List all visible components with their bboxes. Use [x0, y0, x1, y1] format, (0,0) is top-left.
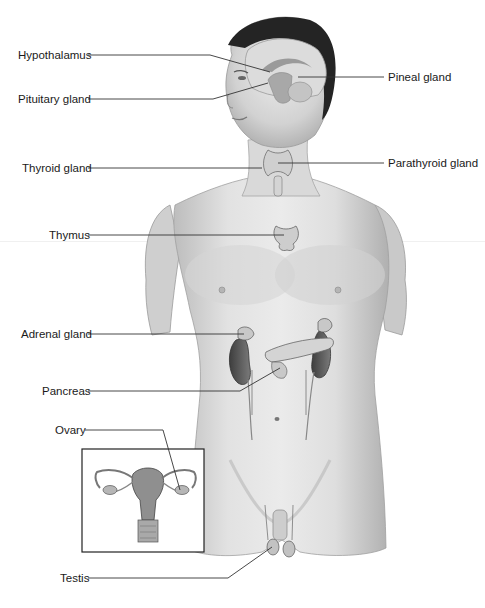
endocrine-diagram: Hypothalamus Pituitary gland Pineal glan… — [0, 0, 485, 608]
label-pineal-gland: Pineal gland — [388, 71, 451, 83]
label-thymus: Thymus — [49, 229, 90, 241]
label-ovary: Ovary — [55, 424, 86, 436]
body-illustration — [0, 0, 485, 608]
label-hypothalamus: Hypothalamus — [18, 49, 92, 61]
label-thyroid-gland: Thyroid gland — [22, 162, 92, 174]
inset-female-reproductive — [82, 449, 204, 552]
label-adrenal-gland: Adrenal gland — [21, 328, 92, 340]
label-testis: Testis — [60, 572, 89, 584]
head — [226, 17, 336, 148]
label-pancreas: Pancreas — [42, 385, 91, 397]
label-parathyroid-gland: Parathyroid gland — [388, 157, 478, 169]
label-pituitary-gland: Pituitary gland — [18, 93, 91, 105]
